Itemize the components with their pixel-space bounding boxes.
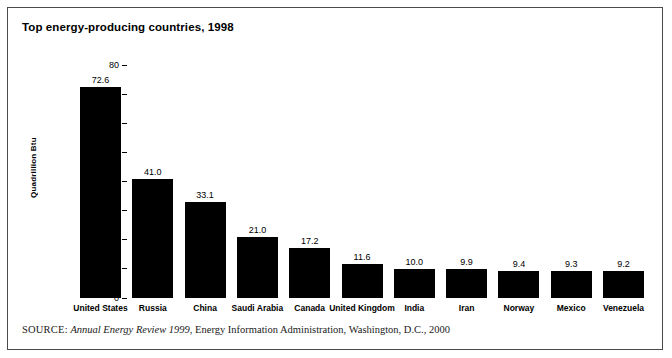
bar-value-label: 9.3 — [543, 259, 600, 269]
bar — [289, 248, 330, 298]
bar-group: 17.2Canada — [289, 65, 330, 298]
y-axis-tick-mark — [122, 123, 127, 124]
y-axis-tick-mark — [122, 94, 127, 95]
bar — [446, 269, 487, 298]
bar-value-label: 72.6 — [72, 75, 129, 85]
bar-value-label: 33.1 — [177, 190, 234, 200]
bar-group: 21.0Saudi Arabia — [237, 65, 278, 298]
bar-value-label: 21.0 — [229, 225, 286, 235]
source-publication: Annual Energy Review 1999 — [70, 324, 189, 335]
bar-group: 33.1China — [185, 65, 226, 298]
bar — [603, 271, 644, 298]
bar-value-label: 10.0 — [386, 257, 443, 267]
bar-group: 10.0India — [394, 65, 435, 298]
bar-value-label: 9.2 — [595, 259, 652, 269]
y-axis-title: Quadrillion Btu — [29, 113, 43, 223]
bar-group: 9.9Iran — [446, 65, 487, 298]
source-note: SOURCE: Annual Energy Review 1999, Energ… — [22, 324, 450, 335]
y-axis-tick-mark — [122, 210, 127, 211]
y-axis-tick-mark — [122, 181, 127, 182]
y-axis-tick-mark — [122, 298, 127, 299]
bar-group: 9.3Mexico — [551, 65, 592, 298]
bar-group: 72.6United States — [80, 65, 121, 298]
bar-value-label: 11.6 — [334, 252, 391, 262]
bar-group: 11.6United Kingdom — [342, 65, 383, 298]
bar-value-label: 41.0 — [124, 167, 181, 177]
bar — [342, 264, 383, 298]
bar — [132, 179, 173, 298]
bar-group: 9.4Norway — [498, 65, 539, 298]
x-axis-category-label: Venezuela — [577, 303, 663, 313]
source-prefix: SOURCE: — [22, 324, 68, 335]
bar — [551, 271, 592, 298]
bar — [185, 202, 226, 298]
y-axis-tick-mark — [122, 268, 127, 269]
y-axis-tick-mark — [122, 239, 127, 240]
y-axis-tick-mark — [122, 65, 127, 66]
bar-value-label: 9.4 — [490, 259, 547, 269]
bar — [237, 237, 278, 298]
bar-value-label: 17.2 — [281, 236, 338, 246]
bar-group: 41.0Russia — [132, 65, 173, 298]
bar — [394, 269, 435, 298]
bar — [498, 271, 539, 298]
plot-area: 01020304050607080 72.6United States41.0R… — [70, 65, 655, 298]
page-title: Top energy-producing countries, 1998 — [22, 21, 234, 33]
bar — [80, 87, 121, 298]
figure-frame: Top energy-producing countries, 1998 Qua… — [7, 7, 663, 350]
bar-value-label: 9.9 — [438, 257, 495, 267]
y-axis-tick-mark — [122, 152, 127, 153]
source-rest: , Energy Information Administration, Was… — [190, 324, 450, 335]
bar-group: 9.2Venezuela — [603, 65, 644, 298]
